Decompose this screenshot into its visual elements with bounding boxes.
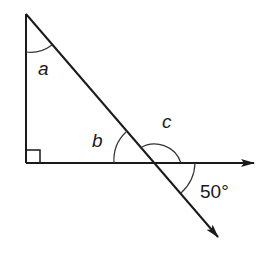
diagonal-ray: [26, 14, 218, 237]
geometry-diagram: a b c 50°: [0, 0, 263, 254]
label-angle-a: a: [38, 58, 49, 79]
angle-arc-50: [181, 163, 195, 193]
label-angle-c: c: [162, 111, 172, 132]
right-angle-marker: [26, 150, 40, 163]
label-angle-b: b: [92, 130, 103, 151]
label-given-angle: 50°: [200, 181, 229, 202]
angle-arc-a: [26, 45, 52, 52]
angle-arc-b: [114, 132, 126, 163]
